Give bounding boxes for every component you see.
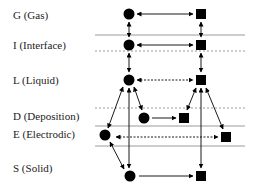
- square-node-liquid: [196, 75, 206, 85]
- square-node-deposition: [179, 113, 189, 123]
- circle-node-liquid: [124, 75, 135, 86]
- circle-node-interface: [124, 40, 135, 51]
- arrow-circle-l-d: [134, 87, 142, 110]
- phase-transfer-diagram: [0, 0, 255, 188]
- circle-node-gas: [124, 9, 135, 20]
- square-node-interface: [196, 40, 206, 50]
- circle-node-electrodic: [100, 130, 111, 141]
- square-node-gas: [196, 9, 206, 19]
- circle-node-deposition: [139, 113, 150, 124]
- square-node-electrodic: [221, 132, 231, 142]
- circle-nodes: [100, 9, 150, 182]
- arrow-square-l-d: [187, 88, 196, 110]
- circle-node-solid: [125, 171, 136, 182]
- square-node-solid: [196, 171, 206, 181]
- phase-boundaries: [95, 35, 245, 146]
- transfer-arrows: [108, 14, 223, 176]
